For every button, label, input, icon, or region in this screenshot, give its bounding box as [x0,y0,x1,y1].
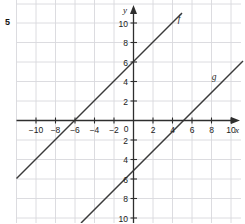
y-tick-label: 8 [123,38,128,48]
x-tick-label: 4 [170,125,175,135]
y-axis-arrow [130,5,137,14]
y-tick-label: 10 [119,214,129,224]
line-g-label: g [212,72,217,82]
line-f-label: f [178,14,182,24]
y-tick-label: 2 [123,97,128,107]
y-tick-label: 4 [123,77,128,87]
graph-figure: 5 [0,0,245,223]
line-f [17,13,183,179]
y-tick-label: 6 [123,175,128,185]
x-tick-label: 8 [209,125,214,135]
x-axis-label: x [234,125,239,135]
y-tick-label: 4 [123,155,128,165]
x-tick-label: −10 [29,125,44,135]
x-tick-label: 6 [190,125,195,135]
y-tick-label: 8 [123,194,128,204]
origin-label: 0 [124,124,129,134]
x-tick-label: −8 [51,125,61,135]
x-tick-labels: −10 −8 −6 −4 −2 2 4 6 8 10 [29,125,236,135]
x-tick-label: −4 [90,125,100,135]
x-tick-label: 2 [151,125,156,135]
grid-lines [17,0,242,223]
x-tick-label: −6 [70,125,80,135]
y-tick-label: 6 [123,58,128,68]
y-tick-label: 2 [123,136,128,146]
x-tick-label: −2 [109,125,119,135]
y-tick-label: 10 [119,19,129,29]
x-axis-arrow [231,117,240,124]
y-axis-label: y [122,5,127,15]
coordinate-plane: −10 −8 −6 −4 −2 2 4 6 8 10 0 10 8 6 4 2 … [0,0,245,223]
